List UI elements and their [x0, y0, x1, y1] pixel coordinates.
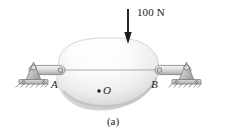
right-base-bolt-2	[195, 80, 198, 83]
point-o-marker	[97, 89, 100, 92]
point-label-a: A	[51, 79, 58, 90]
right-support-ground-hatch	[169, 84, 201, 87]
point-label-b: B	[151, 79, 158, 90]
figure-container: 100 N A B O (a)	[0, 0, 226, 137]
right-link-pin-body-end	[157, 68, 162, 73]
point-label-o: O	[103, 85, 111, 96]
left-base-bolt-2	[42, 80, 45, 83]
left-support-ground-hatch	[16, 84, 48, 87]
rigid-body	[57, 38, 159, 110]
left-support-pin-hole	[31, 65, 36, 70]
right-support-pin-hole	[184, 65, 189, 70]
left-link-pin-body-end	[58, 68, 63, 73]
right-base-bolt-1	[175, 80, 178, 83]
load-label: 100 N	[137, 7, 165, 18]
figure-caption: (a)	[0, 116, 226, 127]
left-base-bolt-1	[22, 80, 25, 83]
